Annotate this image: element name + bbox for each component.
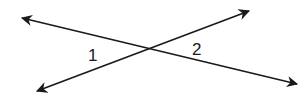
line-b bbox=[37, 11, 249, 91]
angle-label-1: 1 bbox=[88, 46, 97, 65]
angle-label-2: 2 bbox=[192, 40, 201, 59]
line-a bbox=[22, 18, 297, 84]
intersecting-lines-diagram: 1 2 bbox=[0, 0, 305, 105]
